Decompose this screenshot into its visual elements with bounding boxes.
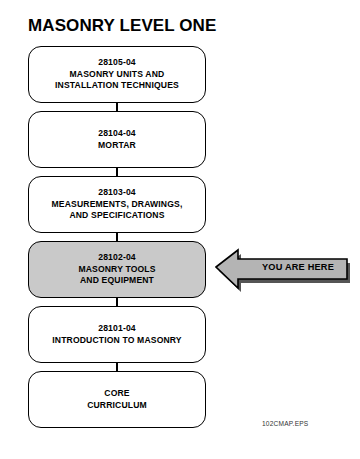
module-title-line: MEASUREMENTS, DRAWINGS, (52, 199, 183, 210)
module-title-line: AND SPECIFICATIONS (69, 210, 164, 221)
course-map-figure: MASONRY LEVEL ONE 28105-04 MASONRY UNITS… (0, 0, 360, 459)
flow-connector (28, 168, 206, 176)
module-box-core-curriculum[interactable]: CORE CURRICULUM (28, 371, 206, 428)
module-box-28103-04[interactable]: 28103-04 MEASUREMENTS, DRAWINGS, AND SPE… (28, 176, 206, 233)
module-title-line: INTRODUCTION TO MASONRY (52, 335, 182, 346)
module-title-line: MASONRY TOOLS (78, 264, 155, 275)
module-title-line: CURRICULUM (87, 400, 147, 411)
you-are-here-callout: YOU ARE HERE (210, 246, 350, 294)
module-flow-column: 28105-04 MASONRY UNITS AND INSTALLATION … (28, 46, 206, 428)
module-title-line: MASONRY UNITS AND (70, 69, 165, 80)
flow-connector (28, 298, 206, 306)
figure-caption: 102CMAP.EPS (262, 420, 308, 427)
module-title-line: AND EQUIPMENT (80, 275, 154, 286)
module-code: 28104-04 (98, 128, 136, 139)
module-code: 28103-04 (98, 187, 136, 198)
page-title: MASONRY LEVEL ONE (28, 16, 216, 36)
module-title-line: MORTAR (98, 140, 136, 151)
module-box-28102-04-current[interactable]: 28102-04 MASONRY TOOLS AND EQUIPMENT (28, 241, 206, 298)
module-box-28105-04[interactable]: 28105-04 MASONRY UNITS AND INSTALLATION … (28, 46, 206, 103)
module-code: 28101-04 (98, 323, 136, 334)
module-title-line: CORE (104, 388, 129, 399)
flow-connector (28, 103, 206, 111)
arrow-left-icon (210, 246, 350, 294)
module-code: 28102-04 (98, 252, 136, 263)
flow-connector (28, 363, 206, 371)
module-code: 28105-04 (98, 57, 136, 68)
module-box-28104-04[interactable]: 28104-04 MORTAR (28, 111, 206, 168)
module-box-28101-04[interactable]: 28101-04 INTRODUCTION TO MASONRY (28, 306, 206, 363)
module-title-line: INSTALLATION TECHNIQUES (55, 80, 179, 91)
flow-connector (28, 233, 206, 241)
